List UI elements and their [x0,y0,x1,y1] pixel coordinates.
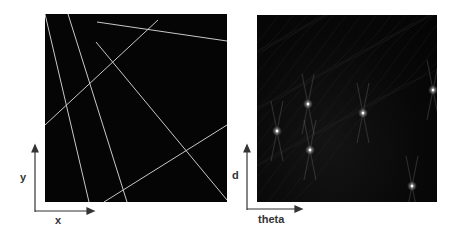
line-segment [68,14,127,202]
hough-accumulator [257,15,437,202]
line-segment [97,22,227,41]
line-segment [104,125,227,202]
hough-peak [271,101,283,161]
right-x-axis-arrow [247,206,302,212]
right-y-axis-arrow [244,145,250,210]
image-space-panel [45,14,227,202]
left-y-axis-arrow [32,145,38,212]
x-axis-label: x [55,215,61,226]
y-axis-label: y [20,172,26,183]
hough-peak [357,83,369,143]
line-segments [45,14,227,202]
hough-peak [304,120,316,180]
line-segment [45,20,158,125]
hough-space-panel [257,15,437,202]
line-segment [45,14,89,202]
theta-axis-label: theta [258,214,284,225]
line-segment [96,42,227,200]
d-axis-label: d [232,170,239,181]
hough-peak [406,156,418,202]
hough-peak [427,60,437,120]
left-x-axis-arrow [35,208,94,214]
